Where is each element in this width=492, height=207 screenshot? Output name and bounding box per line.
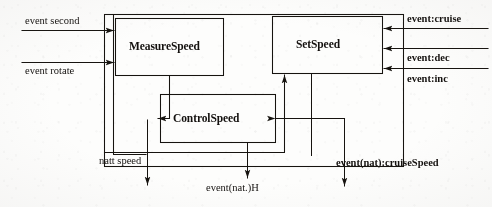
block-diagram: MeasureSpeed SetSpeed ControlSpeed event… bbox=[0, 0, 492, 207]
signal-label-att-speed: natt speed bbox=[99, 156, 141, 167]
block-label-measure-speed: MeasureSpeed bbox=[129, 41, 200, 53]
diagram-canvas bbox=[0, 0, 492, 207]
signal-label-event-second: event second bbox=[25, 16, 80, 27]
outer-boundary-rect bbox=[105, 15, 404, 167]
signal-label-event-inc: event:inc bbox=[407, 74, 448, 85]
signal-label-event-dec: event:dec bbox=[407, 53, 450, 64]
edge-measure-bus-left bbox=[114, 15, 147, 155]
signal-label-event-nat-h: event(nat.)H bbox=[206, 183, 259, 194]
signal-label-event-rotate: event rotate bbox=[25, 66, 74, 77]
signal-label-event-cruise: event:cruise bbox=[407, 14, 461, 25]
block-label-control-speed: ControlSpeed bbox=[173, 113, 239, 125]
edge-measure-to-control bbox=[158, 76, 170, 119]
signal-label-event-nat-cruise-speed: event(nat):cruiseSpeed bbox=[336, 158, 439, 169]
block-label-set-speed: SetSpeed bbox=[296, 39, 340, 51]
